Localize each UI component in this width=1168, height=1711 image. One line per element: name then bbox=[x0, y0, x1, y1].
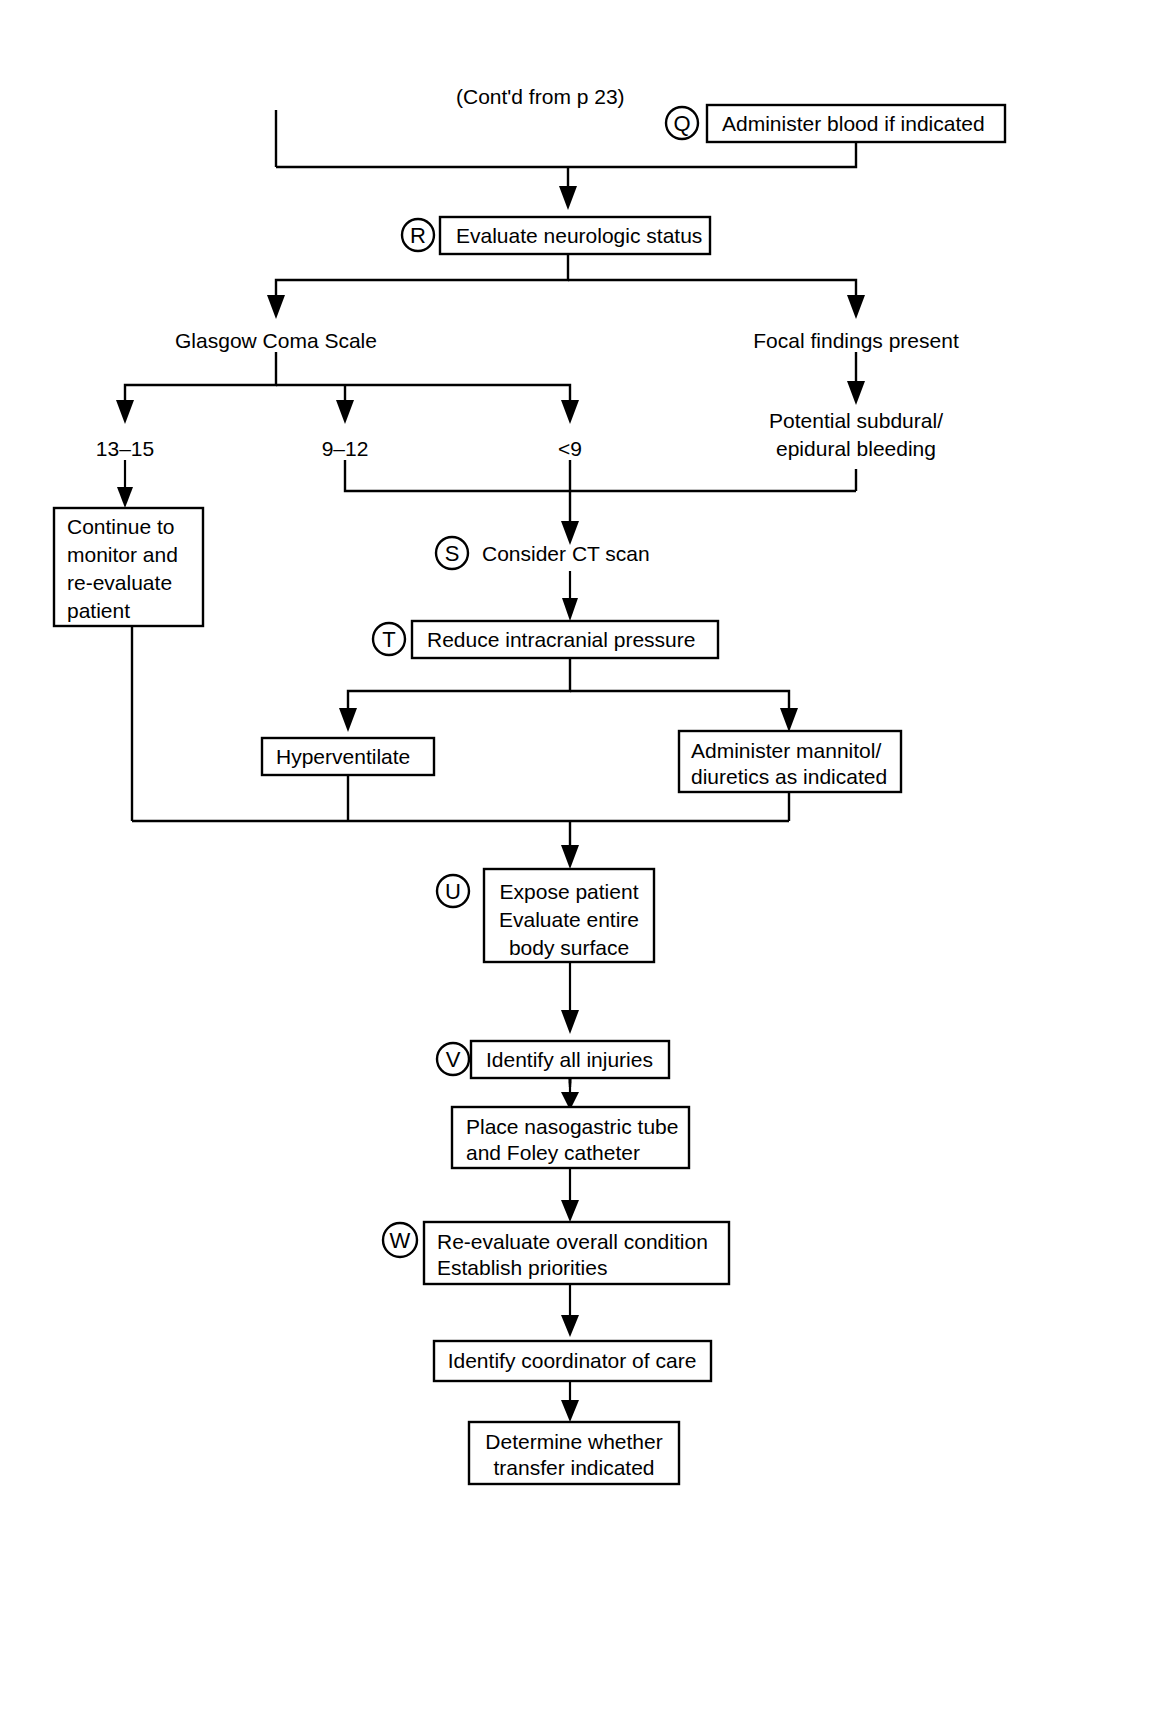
coordinator-label: Identify coordinator of care bbox=[448, 1349, 697, 1372]
gcs-13-15-label: 13–15 bbox=[96, 437, 154, 460]
node-reduce-icp: T Reduce intracranial pressure bbox=[373, 621, 718, 658]
connector-1315-to-continue bbox=[117, 460, 133, 508]
continue-monitor-line2: monitor and bbox=[67, 543, 178, 566]
mannitol-line2: diuretics as indicated bbox=[691, 765, 887, 788]
node-ng-tube: Place nasogastric tube and Foley cathete… bbox=[452, 1107, 689, 1168]
connector-ngtube-to-reevaluate bbox=[561, 1168, 579, 1222]
node-potential-bleeding: Potential subdural/ epidural bleeding bbox=[769, 409, 943, 460]
reevaluate-line1: Re-evaluate overall condition bbox=[437, 1230, 708, 1253]
node-reevaluate: W Re-evaluate overall condition Establis… bbox=[383, 1222, 729, 1284]
node-coordinator: Identify coordinator of care bbox=[434, 1341, 711, 1381]
node-consider-ct: S Consider CT scan bbox=[436, 537, 650, 569]
connector-injuries-to-ngtube bbox=[561, 1078, 579, 1110]
connector-reevaluate-to-coordinator bbox=[561, 1284, 579, 1337]
node-transfer: Determine whether transfer indicated bbox=[469, 1422, 679, 1484]
expose-line2: Evaluate entire bbox=[499, 908, 639, 931]
potential-bleeding-line2: epidural bleeding bbox=[776, 437, 936, 460]
connector-expose-to-injuries bbox=[561, 962, 579, 1034]
node-hyperventilate: Hyperventilate bbox=[262, 738, 434, 775]
node-continue-monitor: Continue to monitor and re-evaluate pati… bbox=[54, 508, 203, 626]
gcs-lt-9-label: <9 bbox=[558, 437, 582, 460]
node-mannitol: Administer mannitol/ diuretics as indica… bbox=[679, 731, 901, 792]
continue-monitor-line4: patient bbox=[67, 599, 130, 622]
step-letter-q: Q bbox=[673, 111, 690, 136]
step-letter-v: V bbox=[446, 1047, 461, 1072]
step-letter-u: U bbox=[445, 879, 461, 904]
administer-blood-label: Administer blood if indicated bbox=[722, 112, 985, 135]
step-letter-t: T bbox=[382, 627, 395, 652]
connector-r-split bbox=[267, 253, 865, 319]
node-identify-injuries: V Identify all injuries bbox=[437, 1041, 669, 1078]
consider-ct-label: Consider CT scan bbox=[482, 542, 650, 565]
connector-merge-to-ct bbox=[345, 460, 856, 545]
continue-monitor-line1: Continue to bbox=[67, 515, 174, 538]
ng-tube-line1: Place nasogastric tube bbox=[466, 1115, 678, 1138]
reduce-icp-label: Reduce intracranial pressure bbox=[427, 628, 695, 651]
connector-gcs-split bbox=[116, 352, 579, 424]
expose-line3: body surface bbox=[509, 936, 629, 959]
node-evaluate-neuro: R Evaluate neurologic status bbox=[402, 217, 710, 254]
hyperventilate-label: Hyperventilate bbox=[276, 745, 410, 768]
step-letter-r: R bbox=[410, 223, 426, 248]
gcs-9-12-label: 9–12 bbox=[322, 437, 369, 460]
ng-tube-line2: and Foley catheter bbox=[466, 1141, 640, 1164]
mannitol-line1: Administer mannitol/ bbox=[691, 739, 881, 762]
node-expose-patient: U Expose patient Evaluate entire body su… bbox=[437, 869, 654, 962]
identify-injuries-label: Identify all injuries bbox=[486, 1048, 653, 1071]
flowchart-canvas: (Cont'd from p 23) Q Administer blood if… bbox=[0, 0, 1168, 1711]
continuation-note: (Cont'd from p 23) bbox=[456, 85, 625, 108]
transfer-line2: transfer indicated bbox=[493, 1456, 654, 1479]
glasgow-coma-scale-label: Glasgow Coma Scale bbox=[175, 329, 377, 352]
potential-bleeding-line1: Potential subdural/ bbox=[769, 409, 943, 432]
step-letter-s: S bbox=[445, 541, 460, 566]
connector-coordinator-to-transfer bbox=[561, 1381, 579, 1422]
focal-findings-label: Focal findings present bbox=[753, 329, 959, 352]
evaluate-neuro-label: Evaluate neurologic status bbox=[456, 224, 702, 247]
node-administer-blood: Q Administer blood if indicated bbox=[666, 105, 1005, 142]
expose-line1: Expose patient bbox=[500, 880, 639, 903]
connector-icp-split bbox=[339, 657, 798, 732]
step-letter-w: W bbox=[390, 1228, 411, 1253]
connector-ct-to-icp bbox=[562, 571, 578, 621]
continue-monitor-line3: re-evaluate bbox=[67, 571, 172, 594]
transfer-line1: Determine whether bbox=[485, 1430, 662, 1453]
connector-focal-to-bleeding bbox=[847, 352, 865, 405]
reevaluate-line2: Establish priorities bbox=[437, 1256, 607, 1279]
